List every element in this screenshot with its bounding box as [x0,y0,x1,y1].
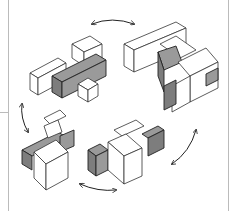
rotate-arrow-left [22,104,28,132]
block-group-top-left [30,36,106,102]
rotate-arrow-bottom [80,184,116,190]
block-group-top-right [124,22,218,112]
rotate-arrow-right [172,130,196,164]
block-group-bottom-right [88,120,164,184]
block-group-bottom-left [22,110,74,190]
frame-borders [0,0,229,211]
rotate-arrow-top [92,20,134,24]
block-puzzle-illustration [0,0,234,211]
